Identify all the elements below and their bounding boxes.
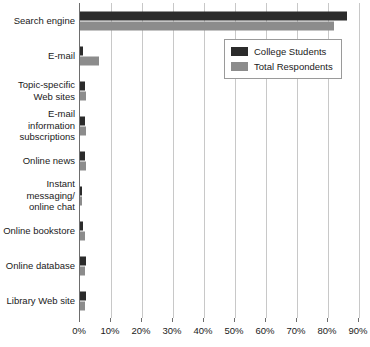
bar-pair [80,11,358,30]
bar-pair [80,81,358,100]
x-axis-labels: 0%10%20%30%40%50%60%70%80%90% [0,325,370,341]
bar-pair [80,221,358,240]
legend-swatch-college-students [231,47,248,56]
x-axis-tick [265,318,266,322]
x-axis-tick [110,318,111,322]
bar-group [80,283,358,318]
bar-total-respondents [80,301,85,310]
category-label: Library Web site [0,283,75,318]
bar-pair [80,186,358,205]
bar-pair [80,291,358,310]
bar-total-respondents [80,161,86,170]
x-axis-tick [358,318,359,322]
horizontal-bar-chart: Search engineE-mailTopic-specific Web si… [0,0,370,347]
bar-college-students [80,186,82,195]
category-label: Instant messaging/ online chat [0,178,75,213]
category-label: Online database [0,248,75,283]
bar-college-students [80,11,347,20]
category-axis-labels: Search engineE-mailTopic-specific Web si… [0,3,75,318]
legend-item-total-respondents: Total Respondents [231,59,333,74]
bar-group [80,248,358,283]
bar-total-respondents [80,56,99,65]
legend-label-total-respondents: Total Respondents [254,61,333,72]
x-axis-tick [327,318,328,322]
bar-college-students [80,256,86,265]
bar-group [80,108,358,143]
category-label: Topic-specific Web sites [0,73,75,108]
bar-total-respondents [80,266,85,275]
bar-group [80,213,358,248]
gridline [359,3,360,318]
x-axis-ticks [79,318,358,323]
bar-group [80,143,358,178]
x-axis-tick [296,318,297,322]
bar-total-respondents [80,231,85,240]
bar-college-students [80,291,86,300]
bar-total-respondents [80,126,86,135]
bar-group [80,178,358,213]
bar-pair [80,116,358,135]
category-label: Online news [0,143,75,178]
bar-pair [80,151,358,170]
x-axis-tick [79,318,80,322]
bar-total-respondents [80,196,82,205]
bar-group [80,3,358,38]
legend-item-college-students: College Students [231,44,333,59]
x-axis-tick [234,318,235,322]
bar-college-students [80,116,85,125]
legend-label-college-students: College Students [254,46,326,57]
category-label: Online bookstore [0,213,75,248]
category-label: E-mail information subscriptions [0,108,75,143]
bar-total-respondents [80,21,334,30]
legend-swatch-total-respondents [231,62,248,71]
category-label: E-mail [0,38,75,73]
x-axis-tick [141,318,142,322]
chart-legend: College Students Total Respondents [224,39,342,79]
x-axis-tick-label: 90% [338,325,370,336]
bar-college-students [80,221,83,230]
x-axis-tick [203,318,204,322]
x-axis-tick [172,318,173,322]
bar-college-students [80,81,85,90]
bar-college-students [80,151,85,160]
category-label: Search engine [0,3,75,38]
bar-college-students [80,46,83,55]
bar-total-respondents [80,91,86,100]
bar-pair [80,256,358,275]
